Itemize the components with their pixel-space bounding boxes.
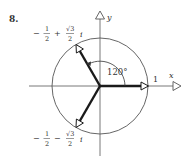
- root-3-imag-unit: i: [80, 135, 83, 144]
- angle-label: 120°: [107, 67, 127, 77]
- root-2-label: − 1 2 + √3 2 i: [33, 25, 83, 43]
- y-axis-arrow-icon: [96, 11, 105, 19]
- cube-roots-of-unity-diagram: 8. x y 1 120° − 1 2 + √3: [0, 0, 182, 156]
- y-axis-label: y: [106, 13, 112, 22]
- root-vector-2: [76, 45, 100, 87]
- root-3-real-den: 2: [45, 140, 49, 148]
- root-2-real-den: 2: [45, 35, 49, 43]
- root-1-arrow-icon: [141, 82, 149, 90]
- root-2-imag-sign: +: [54, 29, 61, 38]
- root-2-real-sign: −: [33, 29, 40, 38]
- problem-number: 8.: [9, 14, 18, 24]
- root-2-imag-den: 2: [68, 35, 72, 43]
- root-vector-1: 1: [100, 75, 158, 90]
- root-2-real-num: 1: [45, 25, 49, 33]
- root-2-imag-num: √3: [66, 25, 74, 33]
- x-axis-label: x: [169, 71, 174, 80]
- x-axis-arrow-icon: [173, 82, 181, 91]
- root-vector-3: [76, 86, 100, 128]
- root-3-imag-sign: −: [54, 134, 61, 143]
- root-2-imag-unit: i: [80, 30, 83, 39]
- root-3-real-num: 1: [45, 130, 49, 138]
- root-3-real-sign: −: [33, 134, 40, 143]
- root-3-imag-den: 2: [68, 140, 72, 148]
- unit-label: 1: [153, 75, 158, 84]
- root-3-imag-num: √3: [66, 130, 74, 138]
- root-3-label: − 1 2 − √3 2 i: [33, 130, 83, 148]
